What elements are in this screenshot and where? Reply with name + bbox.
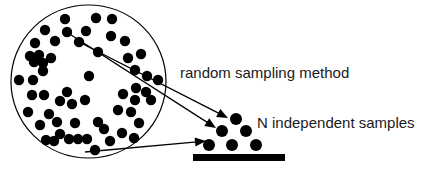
- population-dot: [99, 124, 109, 134]
- population-dot: [91, 13, 101, 23]
- sample-dot: [216, 125, 228, 137]
- n-independent-samples-label: N independent samples: [257, 114, 415, 131]
- sample-baseline-bar-group: [193, 154, 285, 161]
- population-dot: [44, 109, 54, 119]
- population-dot: [46, 53, 56, 63]
- population-dot: [105, 136, 115, 146]
- population-dot: [131, 83, 141, 93]
- population-dot: [134, 118, 144, 128]
- random-sampling-method-label: random sampling method: [180, 64, 349, 81]
- population-dot: [29, 57, 39, 67]
- population-dot: [62, 27, 72, 37]
- sampling-diagram: random sampling method N independent sam…: [0, 0, 440, 171]
- sample-dot: [226, 139, 238, 151]
- sample-dot: [230, 113, 242, 125]
- population-dot: [84, 71, 94, 81]
- population-dot: [117, 128, 127, 138]
- population-dot: [28, 75, 38, 85]
- sample-dot: [240, 125, 252, 137]
- population-dot: [55, 96, 65, 106]
- figure-root: random sampling method N independent sam…: [0, 0, 440, 171]
- population-dot: [14, 75, 24, 85]
- population-dot: [64, 134, 74, 144]
- population-dot: [120, 36, 130, 46]
- sampling-arrow-middle-head: [204, 118, 216, 128]
- population-dot: [62, 87, 72, 97]
- population-dot: [90, 145, 100, 155]
- population-dot: [118, 89, 128, 99]
- independent-samples-group: [203, 113, 262, 151]
- population-dot: [80, 95, 90, 105]
- population-dot: [30, 38, 40, 48]
- population-dot: [126, 107, 136, 117]
- population-dot: [73, 134, 83, 144]
- population-dot: [39, 90, 49, 100]
- sampling-arrow-lower-line: [85, 142, 197, 152]
- population-dot: [27, 90, 37, 100]
- population-dot: [81, 26, 91, 36]
- population-dot: [67, 99, 77, 109]
- population-dot: [136, 49, 146, 59]
- population-dot: [35, 120, 45, 130]
- population-dot: [130, 95, 140, 105]
- population-dot: [38, 66, 48, 76]
- population-dot: [129, 133, 139, 143]
- population-dot: [23, 107, 33, 117]
- population-dot: [50, 36, 60, 46]
- population-dot: [82, 134, 92, 144]
- population-dot: [123, 53, 133, 63]
- population-dot: [52, 117, 62, 127]
- sample-dot: [250, 139, 262, 151]
- sample-baseline-bar: [193, 154, 285, 161]
- population-dot: [40, 25, 50, 35]
- population-dot: [113, 105, 123, 115]
- population-dot: [70, 118, 80, 128]
- population-dot: [146, 95, 156, 105]
- population-dot: [49, 136, 59, 146]
- population-dot: [106, 31, 116, 41]
- population-dot: [60, 14, 70, 24]
- sample-dot: [203, 139, 215, 151]
- population-dot: [107, 14, 117, 24]
